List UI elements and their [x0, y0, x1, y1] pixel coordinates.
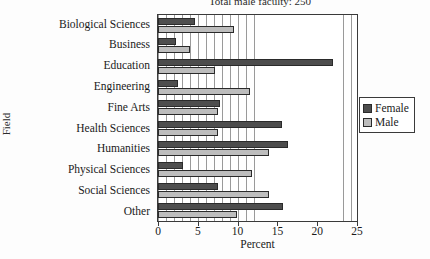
- bar-male: [158, 129, 218, 136]
- bar-female: [158, 18, 195, 25]
- bar-female: [158, 100, 220, 107]
- bar-female: [158, 80, 178, 87]
- x-tick-label: 15: [272, 225, 284, 237]
- bar-group: [158, 36, 357, 57]
- bar-male: [158, 67, 215, 74]
- legend-label: Male: [375, 116, 399, 128]
- chart-screenshot: Total male faculty: 250 Field Biological…: [0, 0, 430, 259]
- bar-group: [158, 200, 357, 221]
- category-label: Engineering: [12, 76, 154, 97]
- chart-legend: FemaleMale: [359, 97, 415, 133]
- bar-male: [158, 149, 269, 156]
- bar-group: [158, 180, 357, 201]
- bar-male: [158, 191, 269, 198]
- bar-female: [158, 38, 176, 45]
- bar-group: [158, 139, 357, 160]
- chart-title: Total male faculty: 250: [160, 0, 360, 7]
- plot-area: [157, 14, 358, 222]
- bar-group: [158, 118, 357, 139]
- bar-group: [158, 15, 357, 36]
- category-label: Humanities: [12, 139, 154, 160]
- x-tick-label: 20: [311, 225, 323, 237]
- bar-female: [158, 141, 288, 148]
- bar-female: [158, 121, 282, 128]
- bar-female: [158, 59, 333, 66]
- category-label: Biological Sciences: [12, 14, 154, 35]
- x-tick-label: 10: [232, 225, 244, 237]
- y-axis-title: Field: [0, 104, 12, 144]
- x-axis-title: Percent: [157, 238, 358, 250]
- category-label: Other: [12, 201, 154, 222]
- legend-label: Female: [375, 102, 409, 114]
- bars-layer: [158, 15, 357, 221]
- bar-male: [158, 108, 218, 115]
- bar-male: [158, 211, 237, 218]
- x-tick-label: 5: [195, 225, 201, 237]
- x-axis-ticks: 0510152025: [157, 222, 358, 236]
- category-label: Fine Arts: [12, 97, 154, 118]
- category-label: Business: [12, 35, 154, 56]
- bar-female: [158, 183, 218, 190]
- legend-item: Female: [363, 101, 409, 115]
- bar-male: [158, 88, 250, 95]
- legend-swatch-icon: [363, 104, 372, 113]
- category-label: Physical Sciences: [12, 160, 154, 181]
- legend-item: Male: [363, 115, 409, 129]
- category-label: Education: [12, 56, 154, 77]
- category-label: Social Sciences: [12, 180, 154, 201]
- bar-female: [158, 203, 283, 210]
- bar-female: [158, 162, 183, 169]
- x-tick-label: 25: [351, 225, 363, 237]
- bar-male: [158, 170, 252, 177]
- x-tick-label: 0: [155, 225, 161, 237]
- bar-group: [158, 159, 357, 180]
- bar-group: [158, 56, 357, 77]
- legend-swatch-icon: [363, 118, 372, 127]
- bar-group: [158, 77, 357, 98]
- category-axis-labels: Biological SciencesBusinessEducationEngi…: [12, 14, 154, 222]
- bar-group: [158, 97, 357, 118]
- bar-male: [158, 46, 190, 53]
- bar-male: [158, 26, 234, 33]
- category-label: Health Sciences: [12, 118, 154, 139]
